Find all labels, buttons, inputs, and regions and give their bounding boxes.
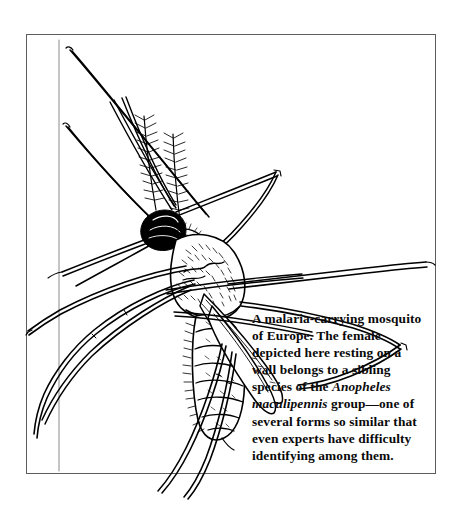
- midleg-left-lower: [34, 280, 195, 438]
- hindleg-right-upper: [228, 262, 435, 289]
- figure-plate: A malaria-carrying mosquito of Europe. T…: [0, 0, 457, 515]
- figure-caption: A malaria-carrying mosquito of Europe. T…: [252, 310, 424, 464]
- foreleg-upper-pair: [63, 47, 209, 266]
- midleg-left-mid: [42, 286, 191, 424]
- foreleg-bundle-midline: [110, 97, 176, 210]
